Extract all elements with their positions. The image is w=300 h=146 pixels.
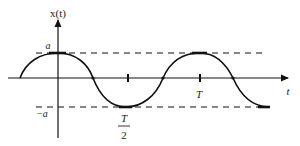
amplitude-label-positive: a xyxy=(46,40,51,51)
zero-crossing-2 xyxy=(161,76,164,79)
cosine-curve xyxy=(20,53,268,107)
amplitude-label-negative: −a xyxy=(36,108,48,119)
y-axis-label: x(t) xyxy=(50,7,66,20)
half-period-denominator: 2 xyxy=(121,129,127,141)
period-label: T xyxy=(196,88,203,100)
zero-crossing-3 xyxy=(231,76,234,79)
half-period-numerator: T xyxy=(121,112,128,124)
waveform-diagram: x(t) a −a T 2 T t xyxy=(0,0,300,146)
zero-crossing-1 xyxy=(91,76,94,79)
x-axis-label: t xyxy=(286,85,290,97)
